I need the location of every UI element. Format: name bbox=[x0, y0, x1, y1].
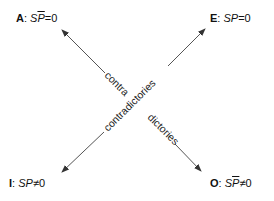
corner-o: O: SP≠0 bbox=[210, 177, 252, 189]
corner-e-s: S bbox=[223, 12, 230, 24]
contradictories-label-e: contradictories bbox=[101, 77, 158, 134]
corner-a: A: SP=0 bbox=[16, 12, 57, 24]
corner-i: I: SP≠0 bbox=[9, 177, 45, 189]
arrow-to-i bbox=[62, 132, 104, 172]
corner-o-s: S bbox=[225, 177, 232, 189]
corner-a-p-barred: P bbox=[37, 12, 44, 24]
contradictories-label-a-part1: contra bbox=[103, 69, 132, 98]
corner-e-op: =0 bbox=[238, 12, 251, 24]
corner-o-letter: O bbox=[210, 177, 219, 189]
corner-o-op: ≠0 bbox=[239, 177, 251, 189]
corner-i-op: ≠0 bbox=[33, 177, 45, 189]
arrow-to-o bbox=[175, 144, 201, 171]
corner-a-op: =0 bbox=[45, 12, 58, 24]
contradictories-label-a-part2: dictories bbox=[146, 111, 182, 147]
arrow-to-e bbox=[168, 29, 205, 66]
corner-i-p: P bbox=[26, 177, 33, 189]
corner-i-s: S bbox=[18, 177, 25, 189]
diagram-canvas: contra dictories contradictories bbox=[0, 0, 274, 201]
arrow-to-a bbox=[62, 30, 105, 73]
corner-e: E: SP=0 bbox=[210, 12, 251, 24]
corner-a-letter: A bbox=[16, 12, 24, 24]
